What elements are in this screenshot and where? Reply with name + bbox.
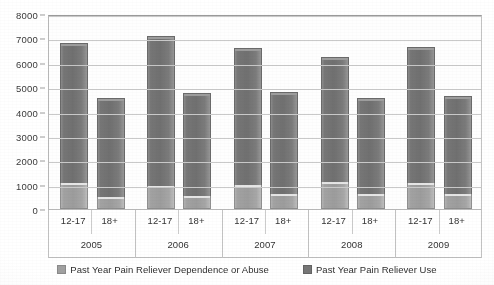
group-separator: [48, 210, 49, 258]
y-tick-mark-2000: [40, 161, 45, 162]
bar-segment-pain-reliever-use[interactable]: [147, 36, 175, 186]
year-label-2007: 2007: [222, 239, 309, 250]
y-tick-mark-4000: [40, 112, 45, 113]
gridline-2000: [49, 162, 481, 163]
bar-2007-12-17[interactable]: [234, 48, 262, 209]
legend-swatch-icon: [303, 265, 312, 274]
bar-segment-pain-reliever-use[interactable]: [270, 92, 298, 194]
group-separator: [135, 210, 136, 258]
y-tick-mark-3000: [40, 136, 45, 137]
category-separator: [178, 210, 179, 234]
bar-segment-dependence-or-abuse[interactable]: [234, 185, 262, 209]
y-tick-mark-6000: [40, 63, 45, 64]
legend-item-dependence-or-abuse[interactable]: Past Year Pain Reliever Dependence or Ab…: [57, 264, 269, 275]
bar-2005-12-17[interactable]: [60, 43, 88, 209]
legend-item-pain-reliever-use[interactable]: Past Year Pain Reliever Use: [303, 264, 437, 275]
y-tick-mark-7000: [40, 39, 45, 40]
bar-segment-pain-reliever-use[interactable]: [321, 57, 349, 183]
bar-segment-dependence-or-abuse[interactable]: [183, 196, 211, 209]
bar-2008-18plus[interactable]: [357, 98, 385, 209]
year-label-2006: 2006: [135, 239, 222, 250]
y-tick-mark-5000: [40, 88, 45, 89]
legend-label: Past Year Pain Reliever Use: [316, 264, 437, 275]
group-separator: [481, 210, 482, 258]
bars-layer: [49, 16, 481, 209]
gridline-8000: [49, 16, 481, 17]
y-tick-label-2000: 2000: [16, 156, 38, 167]
gridline-3000: [49, 138, 481, 139]
chart-legend: Past Year Pain Reliever Dependence or Ab…: [0, 261, 494, 277]
y-tick-label-7000: 7000: [16, 34, 38, 45]
y-tick-label-1000: 1000: [16, 180, 38, 191]
category-separator: [352, 210, 353, 234]
gridline-5000: [49, 89, 481, 90]
y-tick-label-3000: 3000: [16, 131, 38, 142]
gridline-6000: [49, 65, 481, 66]
gridline-1000: [49, 187, 481, 188]
year-label-2008: 2008: [308, 239, 395, 250]
y-tick-mark-0: [40, 210, 45, 211]
y-axis: 010002000300040005000600070008000: [0, 15, 44, 210]
bar-segment-pain-reliever-use[interactable]: [234, 48, 262, 185]
year-label-2009: 2009: [395, 239, 482, 250]
y-tick-label-6000: 6000: [16, 58, 38, 69]
legend-swatch-icon: [57, 265, 66, 274]
category-separator: [439, 210, 440, 234]
bar-2006-12-17[interactable]: [147, 36, 175, 209]
y-tick-label-8000: 8000: [16, 10, 38, 21]
category-axis: 12-1718+12-1718+12-1718+12-1718+12-1718+…: [48, 210, 482, 258]
bar-2007-18plus[interactable]: [270, 92, 298, 209]
bar-segment-pain-reliever-use[interactable]: [444, 96, 472, 195]
plot-area: [48, 15, 482, 210]
y-tick-label-4000: 4000: [16, 107, 38, 118]
group-separator: [308, 210, 309, 258]
group-separator: [395, 210, 396, 258]
bar-2006-18plus[interactable]: [183, 93, 211, 209]
y-tick-label-0: 0: [33, 205, 38, 216]
bar-chart: 010002000300040005000600070008000 12-171…: [0, 0, 494, 285]
legend-label: Past Year Pain Reliever Dependence or Ab…: [70, 264, 269, 275]
gridline-7000: [49, 40, 481, 41]
bar-segment-dependence-or-abuse[interactable]: [147, 186, 175, 209]
year-label-row: 20052006200720082009: [48, 234, 482, 258]
bar-segment-pain-reliever-use[interactable]: [183, 93, 211, 195]
bar-segment-dependence-or-abuse[interactable]: [270, 194, 298, 209]
bar-segment-dependence-or-abuse[interactable]: [444, 194, 472, 209]
bar-segment-dependence-or-abuse[interactable]: [357, 194, 385, 209]
year-label-2005: 2005: [48, 239, 135, 250]
category-separator: [91, 210, 92, 234]
group-separator: [222, 210, 223, 258]
bar-2009-12-17[interactable]: [407, 47, 435, 209]
y-tick-label-5000: 5000: [16, 83, 38, 94]
gridline-4000: [49, 114, 481, 115]
bar-2005-18plus[interactable]: [97, 98, 125, 209]
category-separator: [265, 210, 266, 234]
y-tick-mark-1000: [40, 185, 45, 186]
y-tick-mark-8000: [40, 15, 45, 16]
bar-segment-dependence-or-abuse[interactable]: [97, 197, 125, 209]
